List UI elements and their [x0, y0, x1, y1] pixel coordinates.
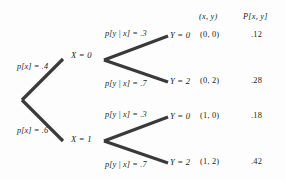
outcome-probability: .12 [251, 31, 262, 39]
column-header-pair: (x, y) [199, 13, 217, 21]
probability-tree-figure: (x, y) P[x, y] p[x] = .4 p[x] = .6 X = 0… [0, 0, 286, 180]
edge-label-prior-bottom: p[x] = .6 [17, 127, 48, 135]
outcome-probability: .42 [251, 158, 262, 166]
node-label-x1: X = 1 [71, 135, 92, 144]
outcome-pair: (0, 0) [200, 31, 219, 39]
outcome-probability: .18 [251, 112, 262, 120]
column-header-probability: P[x, y] [243, 13, 268, 21]
edge-x0-to-y0 [104, 36, 168, 60]
edge-label-cond-2: p[y | x] = .7 [105, 80, 147, 88]
node-label-y-leaf-3: Y = 0 [170, 112, 190, 121]
node-label-y-leaf-4: Y = 2 [170, 158, 190, 167]
edge-label-cond-3: p[y | x] = .3 [105, 111, 147, 119]
outcome-pair: (1, 2) [200, 158, 219, 166]
edge-label-cond-4: p[y | x] = .7 [105, 161, 147, 169]
edge-label-prior-top: p[x] = .4 [17, 63, 48, 71]
outcome-pair: (0, 2) [200, 77, 219, 85]
edge-x1-to-y0 [104, 117, 168, 141]
outcome-pair: (1, 0) [200, 112, 219, 120]
outcome-probability: .28 [251, 77, 262, 85]
node-label-y-leaf-1: Y = 0 [170, 31, 190, 40]
edge-label-cond-1: p[y | x] = .3 [105, 30, 147, 38]
tree-edges [0, 0, 286, 180]
node-label-x0: X = 0 [71, 51, 92, 60]
node-label-y-leaf-2: Y = 2 [170, 77, 190, 86]
